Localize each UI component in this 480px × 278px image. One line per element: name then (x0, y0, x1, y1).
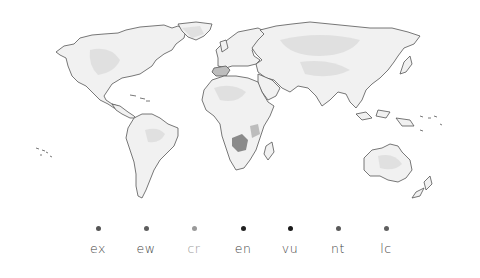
legend-dot-lc (384, 226, 389, 231)
north-america (56, 25, 186, 110)
legend-dot-vu (288, 226, 293, 231)
legend-item-nt: nt (318, 226, 358, 256)
legend-dot-ew (144, 226, 149, 231)
legend-label-ew: ew (126, 241, 166, 256)
legend-item-cr: cr (174, 226, 214, 256)
legend-label-vu: vu (270, 241, 310, 256)
legend-item-ew: ew (126, 226, 166, 256)
legend-dot-ex (96, 226, 101, 231)
legend-item-en: en (223, 226, 263, 256)
legend-dot-cr (192, 226, 197, 231)
legend-item-ex: ex (78, 226, 118, 256)
world-map (0, 0, 480, 215)
legend-label-nt: nt (318, 241, 358, 256)
legend-item-lc: lc (366, 226, 406, 256)
legend-label-ex: ex (78, 241, 118, 256)
south-america (126, 114, 178, 198)
iberia (212, 66, 230, 76)
legend-label-en: en (223, 241, 263, 256)
central-america (112, 104, 136, 118)
legend-label-lc: lc (366, 241, 406, 256)
legend-dot-en (241, 226, 246, 231)
legend-label-cr: cr (174, 241, 214, 256)
legend-item-vu: vu (270, 226, 310, 256)
legend-dot-nt (336, 226, 341, 231)
legend: ex ew cr en vu nt lc (0, 226, 480, 266)
